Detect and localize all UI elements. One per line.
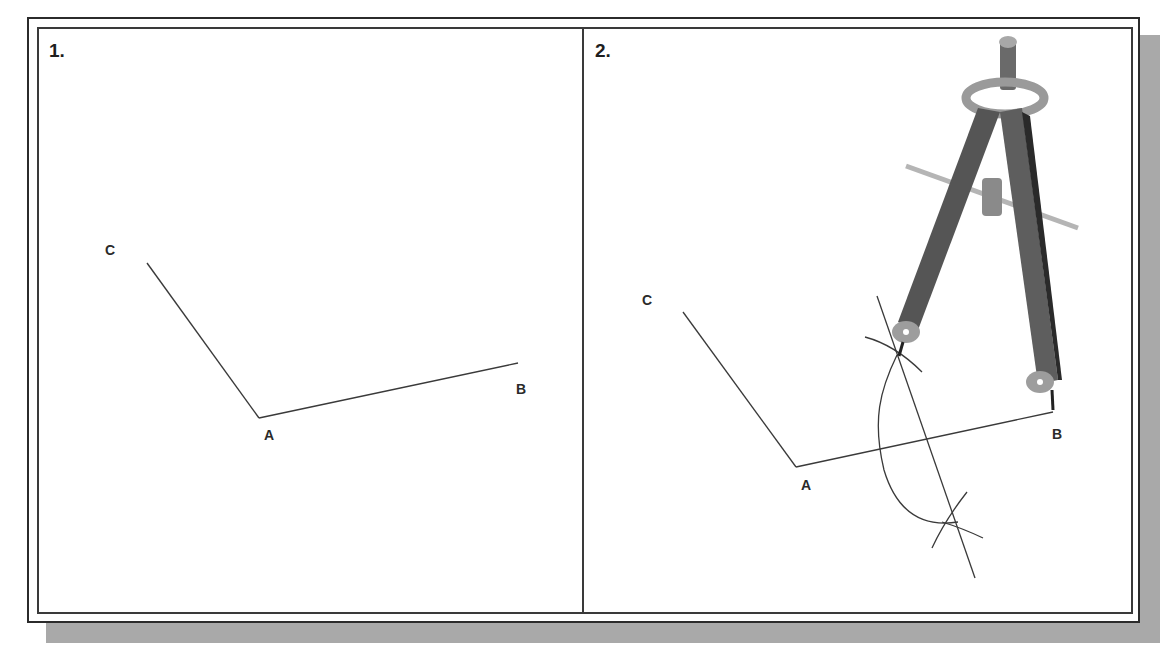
compass-right-pivot: [1037, 379, 1043, 385]
compass-handle-top: [999, 36, 1017, 48]
arc-tick-lower-2: [942, 522, 983, 538]
segment-ab: [259, 363, 518, 418]
compass-knuckle: [982, 178, 1002, 216]
segment-ab: [796, 412, 1053, 467]
compass-icon: [892, 36, 1078, 410]
segment-ca: [683, 312, 796, 467]
geometry-drawing: [0, 0, 1171, 651]
compass-pencil-tip: [1052, 390, 1053, 410]
construction-arc: [878, 355, 958, 523]
bisector-line: [877, 296, 975, 578]
compass-left-pivot: [903, 329, 909, 335]
compass-left-leg: [898, 108, 1000, 330]
segment-ca: [147, 263, 259, 418]
panel-1-angle: [147, 263, 518, 418]
compass-needle: [899, 342, 903, 356]
panel-2-construction: [683, 296, 1053, 578]
